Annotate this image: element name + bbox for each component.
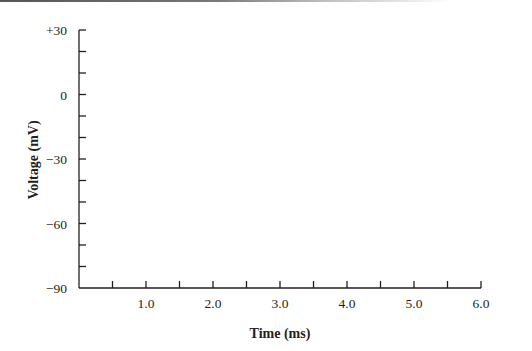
- y-axis: +300−30−60−90: [46, 23, 86, 296]
- y-tick-label: −30: [46, 152, 67, 167]
- x-axis: 1.02.03.04.05.06.0: [79, 281, 490, 311]
- x-axis-title: Time (ms): [250, 326, 311, 342]
- x-tick-label: 2.0: [205, 296, 222, 311]
- x-tick-label: 5.0: [406, 296, 423, 311]
- voltage-time-chart: +300−30−60−90 1.02.03.04.05.06.0 Time (m…: [0, 0, 532, 351]
- x-tick-label: 1.0: [138, 296, 155, 311]
- x-tick-label: 3.0: [272, 296, 289, 311]
- y-tick-label: −60: [46, 217, 67, 232]
- y-tick-label: +30: [46, 23, 67, 38]
- y-tick-label: 0: [60, 88, 67, 103]
- x-tick-label: 4.0: [339, 296, 356, 311]
- y-tick-label: −90: [46, 281, 67, 296]
- x-tick-label: 6.0: [473, 296, 490, 311]
- y-axis-title: Voltage (mV): [26, 120, 42, 200]
